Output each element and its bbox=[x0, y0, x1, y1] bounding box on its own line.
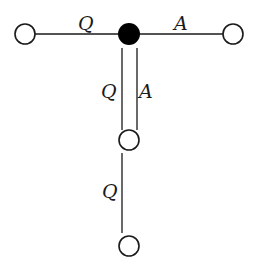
node-left bbox=[15, 24, 35, 44]
label-vertical-left: Q bbox=[101, 80, 117, 102]
node-center-filled bbox=[118, 23, 140, 45]
node-middle bbox=[119, 130, 139, 150]
node-right bbox=[223, 24, 243, 44]
graph-diagram: Q A Q A Q bbox=[0, 0, 257, 270]
node-bottom bbox=[119, 236, 139, 256]
label-right-edge: A bbox=[172, 12, 188, 34]
label-lower-edge: Q bbox=[102, 180, 118, 202]
label-vertical-right: A bbox=[137, 80, 153, 102]
diagram-canvas: Q A Q A Q bbox=[0, 0, 257, 270]
label-left-edge: Q bbox=[78, 12, 94, 34]
